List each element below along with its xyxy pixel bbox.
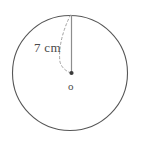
radius-measurement-label: 7 cm: [34, 40, 61, 55]
circle-diagram-figure: 7 cm o: [0, 0, 141, 147]
center-dot-icon: [69, 71, 73, 75]
center-point-label: o: [68, 80, 74, 92]
circle-diagram-canvas: 7 cm o: [0, 0, 141, 147]
